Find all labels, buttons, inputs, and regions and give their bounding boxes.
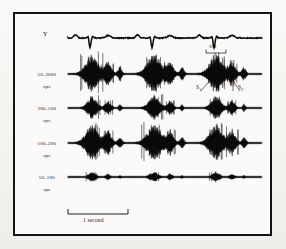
trace-path [68, 171, 262, 182]
trace-path [68, 35, 262, 48]
scalebar [68, 209, 128, 214]
annotation-s1: S1 [196, 84, 201, 92]
row-label-50-100-units: cps [43, 187, 50, 192]
scalebar-label: 1 second [83, 217, 104, 223]
row-label-100-200: 100–200 cps [20, 135, 68, 165]
annotation-s2: S2 [238, 84, 243, 92]
row-label-200-500: 200–500 cps [20, 100, 68, 130]
row-label-100-200-band: 100–200 [38, 141, 57, 146]
systolic-murmur-bracket [206, 50, 226, 54]
row-label-50-2000-band: 50–2000 [38, 72, 57, 77]
row-label-50-2000: 50–2000 cps [20, 66, 68, 96]
figure-phonocardiogram: Y 50–2000 cps 200–500 cps 100–200 cps 50… [0, 0, 286, 249]
row-label-50-2000-units: cps [43, 84, 50, 89]
row-label-100-200-units: cps [43, 153, 50, 158]
trace-path [68, 95, 262, 120]
waveform-traces [68, 35, 262, 183]
row-label-ecg-y: Y [43, 31, 47, 37]
annotation-systolic-murmur: SM [209, 44, 217, 49]
row-label-200-500-band: 200–500 [38, 106, 57, 111]
leader-line-s1 [201, 79, 211, 91]
row-label-50-100: 50–100 cps [20, 169, 68, 199]
row-label-50-100-band: 50–100 [39, 175, 55, 180]
row-label-200-500-units: cps [43, 118, 50, 123]
annotation-s2-subscript: 2 [241, 87, 243, 92]
annotation-s1-subscript: 1 [199, 87, 201, 92]
